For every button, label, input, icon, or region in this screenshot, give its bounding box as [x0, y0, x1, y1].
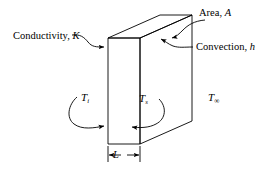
- label-temp-ambient: T∞: [208, 92, 219, 105]
- label-temp-surface-subscript: s: [145, 98, 148, 105]
- slab-front-face: [108, 38, 140, 144]
- label-thickness-symbol: L: [113, 149, 119, 160]
- label-conductivity: Conductivity, K: [13, 31, 79, 42]
- temp-surface-arrow: [132, 99, 164, 128]
- label-convection: Convection, h: [196, 42, 255, 53]
- label-temp-inner: Ti: [81, 92, 89, 105]
- label-area: Area, A: [199, 8, 231, 19]
- label-convection-symbol: h: [250, 41, 255, 52]
- label-area-text: Area,: [199, 7, 222, 18]
- label-conductivity-text: Conductivity,: [13, 30, 70, 41]
- label-temp-inner-subscript: i: [87, 97, 89, 104]
- slab-right-face: [140, 15, 192, 144]
- label-temp-surface: Ts: [139, 93, 148, 106]
- slab-schematic-svg: [0, 0, 269, 170]
- slab-top-face: [108, 15, 192, 38]
- convection-leader-line: [161, 39, 193, 47]
- label-thickness: L: [113, 150, 119, 161]
- slab-body: [108, 15, 192, 144]
- label-area-symbol: A: [225, 7, 231, 18]
- label-convection-text: Convection,: [196, 41, 247, 52]
- label-conductivity-symbol: K: [72, 30, 79, 41]
- diagram-canvas: Conductivity, K Area, A Convection, h Ti…: [0, 0, 269, 170]
- label-temp-ambient-subscript: ∞: [214, 97, 219, 105]
- area-leader-line: [172, 20, 205, 38]
